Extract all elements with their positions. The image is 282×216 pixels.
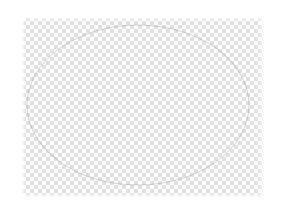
image-canvas[interactable] — [22, 17, 263, 197]
app-root — [0, 0, 282, 216]
transparency-checkerboard — [22, 17, 263, 197]
